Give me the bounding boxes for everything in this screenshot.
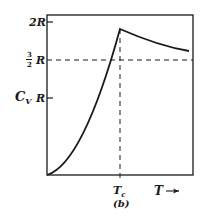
fraction-R: R	[36, 55, 45, 66]
y-axis-label-sub: V	[25, 96, 31, 106]
chart-canvas	[0, 0, 203, 217]
ytick-label-2R: 2R	[29, 17, 46, 28]
y-axis-label: CV	[15, 86, 32, 105]
y-axis-label-C: C	[15, 89, 25, 104]
xtick-label-Tc: Tc	[113, 179, 125, 198]
fraction-numerator: 3	[27, 51, 32, 58]
fraction-denominator: 2	[27, 61, 32, 68]
cv-curve	[47, 29, 189, 175]
xtick-T: T	[113, 184, 121, 197]
x-axis-label: T	[154, 185, 163, 197]
panel-label: (b)	[113, 199, 129, 209]
ytick-label-R: R	[36, 93, 45, 104]
